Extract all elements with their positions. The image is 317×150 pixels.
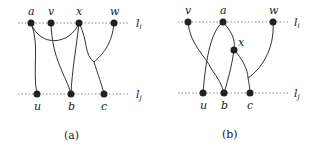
node-b xyxy=(221,90,228,97)
node-v xyxy=(185,19,192,26)
edge-v-b xyxy=(51,23,71,94)
node-b xyxy=(68,91,75,98)
node-w xyxy=(270,19,277,26)
node-w xyxy=(111,20,118,27)
node-label: x xyxy=(238,36,245,49)
node-label: u xyxy=(200,99,207,112)
edge-a-u xyxy=(31,23,37,94)
node-label: u xyxy=(34,100,41,113)
node-label: w xyxy=(110,5,120,18)
panel-b: li lj v a w x u b c (b) xyxy=(178,4,301,141)
label-lj-a: lj xyxy=(136,88,143,102)
node-x xyxy=(231,47,238,54)
label-li-a: li xyxy=(136,17,142,31)
node-u xyxy=(34,91,41,98)
caption-b: (b) xyxy=(222,128,238,141)
node-label: a xyxy=(220,4,227,17)
node-label: w xyxy=(269,4,279,17)
node-label: v xyxy=(48,5,55,18)
node-c xyxy=(101,91,108,98)
edge-w-c xyxy=(94,23,114,62)
node-label: c xyxy=(101,100,107,113)
label-li-b: li xyxy=(294,16,300,30)
edge-x-c xyxy=(234,50,250,93)
edge-a-x xyxy=(223,22,234,50)
node-c xyxy=(247,90,254,97)
node-u xyxy=(200,90,207,97)
node-v xyxy=(48,20,55,27)
panel-a: li lj a v x w u b c (a) xyxy=(18,5,143,142)
edge-a-x xyxy=(31,23,79,41)
node-a xyxy=(28,20,35,27)
edge-w-c xyxy=(248,22,273,78)
node-x xyxy=(76,20,83,27)
diagram-canvas: li lj a v x w u b c (a) li lj xyxy=(0,0,317,150)
node-label: c xyxy=(247,99,253,112)
edge-x-c xyxy=(79,23,104,94)
edge-x-b xyxy=(224,50,234,93)
edge-v-b xyxy=(188,22,224,93)
node-label: a xyxy=(28,5,35,18)
node-label: b xyxy=(68,100,75,113)
node-label: x xyxy=(76,5,83,18)
node-label: v xyxy=(185,4,192,17)
caption-a: (a) xyxy=(64,129,79,142)
node-label: b xyxy=(221,99,228,112)
node-a xyxy=(220,19,227,26)
label-lj-b: lj xyxy=(294,87,301,101)
